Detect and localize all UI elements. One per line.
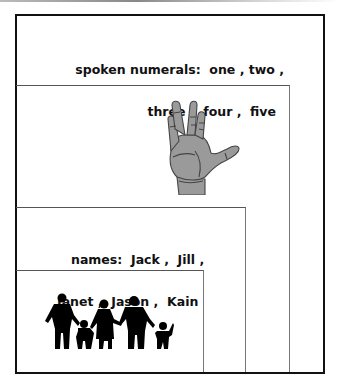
family-silhouette-icon: [42, 293, 174, 351]
top-edge-line: [0, 0, 340, 2]
spoken-numerals-line-1: spoken numerals: one , two ,: [75, 63, 284, 77]
hand-icon: [165, 99, 245, 195]
names-line-1: names: Jack , Jill ,: [0, 253, 270, 267]
